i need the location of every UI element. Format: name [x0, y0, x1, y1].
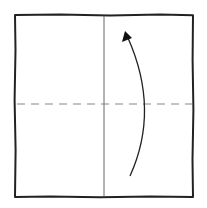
diagram-svg: [0, 0, 207, 208]
origami-diagram: origami-step: [0, 0, 207, 208]
